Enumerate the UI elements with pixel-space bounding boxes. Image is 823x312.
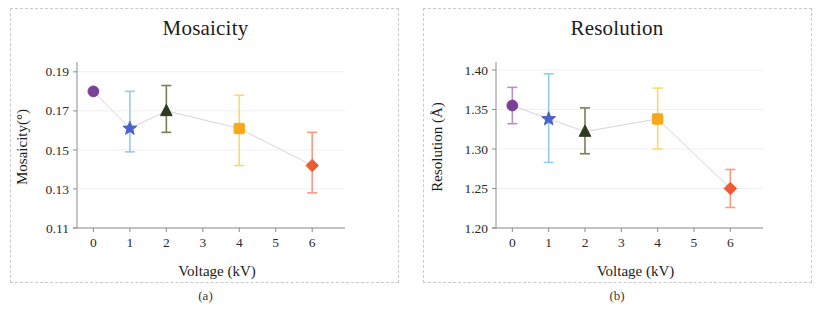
- figure-container: Mosaicity 0.110.130.150.170.190123456Vol…: [0, 0, 823, 312]
- y-tick-label: 1.35: [464, 102, 488, 117]
- panel-b-caption: (b): [411, 288, 823, 304]
- y-tick-label: 0.15: [45, 143, 69, 158]
- y-tick-label: 1.40: [464, 63, 488, 78]
- x-tick-label: 3: [199, 235, 206, 250]
- data-point-marker: [306, 159, 318, 171]
- x-tick-label: 4: [236, 235, 243, 250]
- x-axis-title: Voltage (kV): [597, 263, 675, 280]
- y-axis-title: Mosaicity(°): [14, 109, 31, 185]
- panel-a: Mosaicity 0.110.130.150.170.190123456Vol…: [0, 0, 411, 312]
- y-tick-label: 0.13: [45, 182, 69, 197]
- x-tick-label: 5: [691, 235, 698, 250]
- x-axis-title: Voltage (kV): [178, 263, 256, 280]
- x-tick-label: 4: [654, 235, 661, 250]
- data-point-marker: [652, 114, 662, 124]
- x-tick-label: 1: [126, 235, 133, 250]
- data-point-marker: [161, 104, 173, 115]
- panel-b-plot: 1.201.251.301.351.400123456Voltage (kV)R…: [418, 30, 818, 300]
- y-tick-label: 0.11: [46, 221, 69, 236]
- y-tick-label: 0.19: [45, 64, 69, 79]
- panel-a-plot: 0.110.130.150.170.190123456Voltage (kV)M…: [5, 30, 405, 300]
- data-point-marker: [507, 100, 518, 111]
- y-tick-label: 1.25: [464, 181, 488, 196]
- x-tick-label: 6: [309, 235, 316, 250]
- y-tick-label: 1.20: [464, 221, 488, 236]
- panel-b: Resolution 1.201.251.301.351.400123456Vo…: [411, 0, 823, 312]
- x-tick-label: 5: [272, 235, 279, 250]
- panel-a-caption: (a): [0, 288, 411, 304]
- y-tick-label: 0.17: [45, 103, 69, 118]
- y-axis-title: Resolution (Å): [429, 102, 446, 192]
- x-tick-label: 2: [582, 235, 589, 250]
- x-tick-label: 2: [163, 235, 170, 250]
- data-point-marker: [234, 123, 244, 133]
- y-tick-label: 1.30: [464, 142, 488, 157]
- x-tick-label: 0: [90, 235, 97, 250]
- x-tick-label: 6: [727, 235, 734, 250]
- x-tick-label: 0: [509, 235, 516, 250]
- data-point-marker: [88, 86, 99, 97]
- x-tick-label: 1: [545, 235, 552, 250]
- x-tick-label: 3: [618, 235, 625, 250]
